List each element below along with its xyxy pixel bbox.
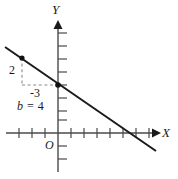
plot-canvas	[0, 0, 178, 179]
y-axis-arrow-icon	[54, 20, 63, 29]
rise-label: 2	[9, 64, 15, 76]
origin-label: O	[45, 139, 54, 151]
run-label: -3	[30, 87, 40, 99]
x-axis-arrow-icon	[152, 129, 161, 138]
y-axis-ticks	[58, 33, 67, 159]
y-axis	[54, 20, 63, 172]
intercept-variable: b	[17, 99, 24, 113]
x-axis-label: X	[162, 126, 170, 139]
equals-sign: =	[27, 99, 34, 113]
y-axis-label: Y	[52, 3, 59, 16]
coordinate-line-graph-figure: Y X O 2 -3 b = 4	[0, 0, 178, 179]
y-intercept-point-marker	[55, 82, 61, 88]
intercept-value: 4	[38, 99, 45, 113]
intercept-annotation: b = 4	[17, 100, 44, 112]
slope-point-marker	[19, 55, 24, 60]
